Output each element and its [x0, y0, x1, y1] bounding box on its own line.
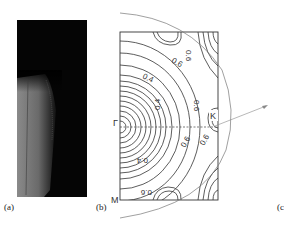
- contour-label: 0.4: [153, 98, 162, 110]
- panel-b-label: (b): [96, 202, 107, 212]
- contour-label: 0.4: [141, 72, 155, 85]
- m-point-label: M: [111, 195, 119, 205]
- contour-label: 0.6: [192, 100, 201, 112]
- panel-a-image: [17, 20, 87, 197]
- contour-label: 0.6: [184, 50, 193, 62]
- contour-label: 0.4: [136, 156, 148, 165]
- direction-arrow: [215, 105, 268, 126]
- contour-label: 0.6: [179, 134, 193, 149]
- panel-c-label: (c: [277, 202, 284, 212]
- figure: 0.6 0.6 0.4 0.6 0.4 0.4 0.6 0.6 0.6 Γ K …: [0, 0, 284, 232]
- k-point-label: K: [210, 111, 216, 121]
- contour-label: 0.6: [170, 56, 185, 70]
- panel-a-label: (a): [4, 202, 14, 212]
- contour-label: 0.6: [140, 188, 152, 197]
- gamma-point-label: Γ: [113, 118, 118, 128]
